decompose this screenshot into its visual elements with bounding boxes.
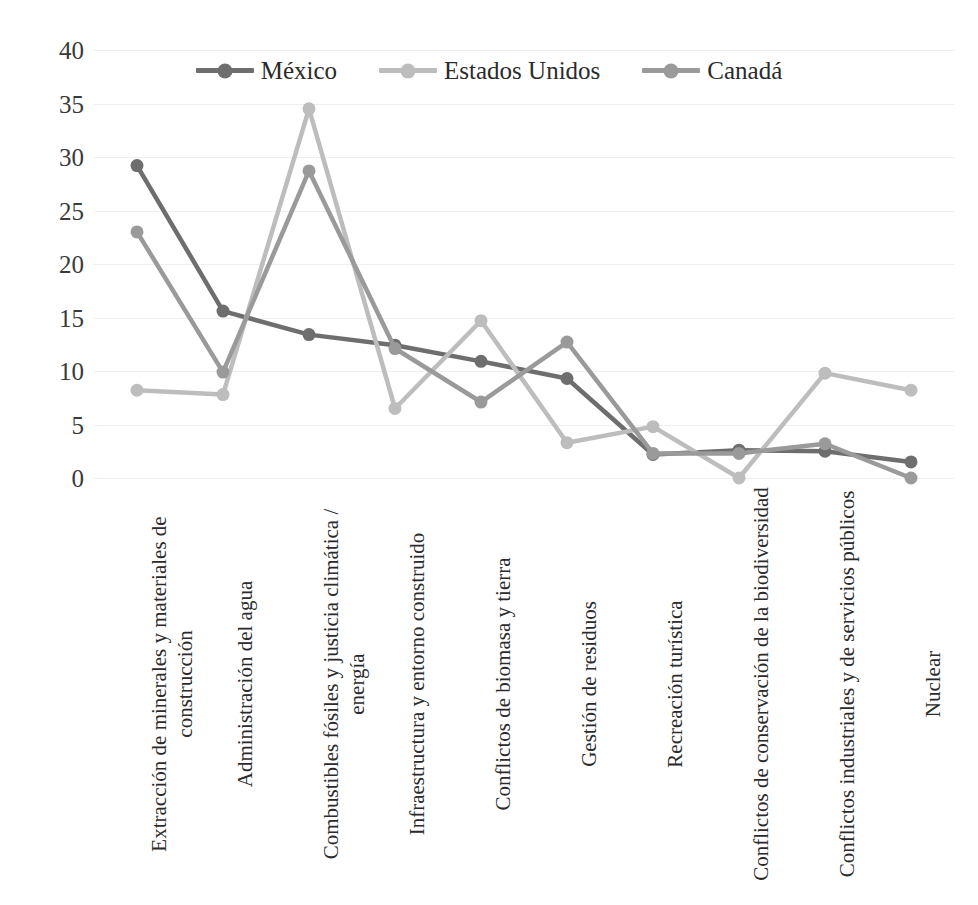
y-axis-tick-label: 10: [36, 359, 84, 384]
x-axis-label: Conflictos industriales y de servicios p…: [834, 484, 860, 884]
data-point: [475, 396, 488, 409]
data-point: [905, 472, 918, 485]
data-point: [733, 447, 746, 460]
data-point: [561, 336, 574, 349]
data-point: [475, 355, 488, 368]
series-3: [131, 164, 918, 484]
series-line: [137, 109, 911, 478]
y-axis-tick-label: 15: [36, 306, 84, 331]
data-point: [131, 225, 144, 238]
x-axis-label: Conflictos de biomasa y tierra: [490, 484, 516, 884]
y-axis-tick-label: 20: [36, 252, 84, 277]
series-layer: [94, 50, 954, 478]
data-point: [303, 102, 316, 115]
x-axis-labels: Extracción de minerales y materiales de …: [94, 484, 954, 899]
data-point: [217, 305, 230, 318]
data-point: [303, 328, 316, 341]
x-axis-label: Recreación turística: [662, 484, 688, 884]
data-point: [905, 455, 918, 468]
x-axis-label: Conflictos de conservación de la biodive…: [748, 484, 774, 884]
y-axis-tick-label: 30: [36, 145, 84, 170]
data-point: [475, 314, 488, 327]
data-point: [819, 437, 832, 450]
x-axis-label: Nuclear: [920, 484, 946, 884]
data-point: [819, 367, 832, 380]
series-2: [131, 102, 918, 484]
data-point: [389, 342, 402, 355]
data-point: [905, 384, 918, 397]
x-axis-label: Administración del agua: [232, 484, 258, 884]
data-point: [131, 384, 144, 397]
y-axis-tick-label: 0: [36, 466, 84, 491]
data-point: [131, 159, 144, 172]
gridline: [94, 478, 954, 479]
y-axis-tick-label: 25: [36, 199, 84, 224]
data-point: [303, 164, 316, 177]
data-point: [389, 402, 402, 415]
data-point: [217, 366, 230, 379]
data-point: [561, 436, 574, 449]
y-axis-tick-label: 40: [36, 38, 84, 63]
y-axis-tick-label: 35: [36, 92, 84, 117]
x-axis-label: Extracción de minerales y materiales de …: [146, 484, 199, 884]
x-axis-label: Combustibles fósiles y justicia climátic…: [318, 484, 371, 884]
data-point: [561, 372, 574, 385]
data-point: [647, 420, 660, 433]
x-axis-label: Infraestructura y entorno construido: [404, 484, 430, 884]
data-point: [647, 447, 660, 460]
x-axis-label: Gestión de residuos: [576, 484, 602, 884]
series-line: [137, 166, 911, 462]
y-axis-tick-label: 5: [36, 413, 84, 438]
data-point: [217, 388, 230, 401]
plot-area: [94, 50, 954, 478]
data-point: [733, 472, 746, 485]
series-line: [137, 171, 911, 478]
line-chart: 4035302520151050 México Estados Unidos C…: [0, 0, 978, 905]
